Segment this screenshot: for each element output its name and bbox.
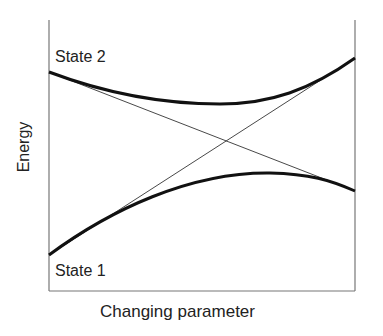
- y-axis-label: Energy: [15, 117, 33, 177]
- state1-label: State 1: [55, 262, 106, 280]
- state1-curve: [49, 173, 355, 255]
- x-axis-label: Changing parameter: [100, 302, 255, 322]
- diabatic-line-a: [49, 72, 355, 191]
- state2-label: State 2: [55, 48, 106, 66]
